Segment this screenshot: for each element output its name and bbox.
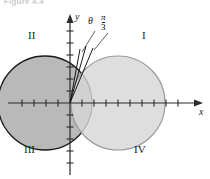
label-leaders [82,31,108,52]
quadrant-label-II: II [28,30,35,41]
quadrant-label-IV: IV [134,144,146,155]
pi-over-three-label: π 3 [101,13,106,32]
fraction-numerator: π [101,13,106,22]
y-axis-label: y [75,12,79,22]
quadrant-label-I: I [142,30,146,41]
theta-label: θ [88,16,93,26]
x-axis-label: x [199,107,203,117]
pi3-leader [94,33,108,50]
fraction-denominator: 3 [101,23,106,32]
y-axis-arrowhead [67,14,74,23]
quadrant-label-III: III [24,144,35,155]
